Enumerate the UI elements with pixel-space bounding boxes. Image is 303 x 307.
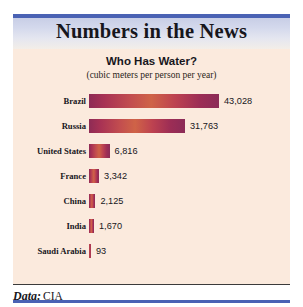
bar-segment bbox=[89, 119, 185, 133]
bar-row: United States6,816 bbox=[13, 139, 290, 164]
chart-subtitle: (cubic meters per person per year) bbox=[13, 70, 290, 80]
bar-category-label: India bbox=[13, 214, 86, 239]
bar-segment bbox=[89, 219, 94, 233]
bar-value-label: 1,670 bbox=[99, 214, 122, 239]
bar-value-label: 31,763 bbox=[190, 114, 218, 139]
bar-row: France3,342 bbox=[13, 164, 290, 189]
bar-row: China2,125 bbox=[13, 189, 290, 214]
bar-category-label: China bbox=[13, 189, 86, 214]
bar-segment bbox=[89, 144, 110, 158]
chart-area: Who Has Water? (cubic meters per person … bbox=[13, 49, 290, 284]
bar-segment bbox=[89, 244, 91, 258]
bar-value-label: 6,816 bbox=[115, 139, 138, 164]
bar-value-label: 43,028 bbox=[224, 89, 252, 114]
bar-value-label: 93 bbox=[96, 239, 106, 264]
bar-row: Brazil43,028 bbox=[13, 89, 290, 114]
bar-segment bbox=[89, 94, 219, 108]
bar-category-label: France bbox=[13, 164, 86, 189]
bar-value-label: 2,125 bbox=[100, 189, 123, 214]
bar-row: India1,670 bbox=[13, 214, 290, 239]
chart-title: Who Has Water? bbox=[13, 55, 290, 67]
bar-category-label: Saudi Arabia bbox=[13, 239, 86, 264]
header-band: Numbers in the News bbox=[13, 18, 290, 49]
bar-rows: Brazil43,028Russia31,763United States6,8… bbox=[13, 89, 290, 264]
footer-divider bbox=[13, 284, 290, 285]
bottom-accent-rule bbox=[13, 300, 290, 303]
bar-segment bbox=[89, 194, 95, 208]
bar-row: Saudi Arabia93 bbox=[13, 239, 290, 264]
bar-row: Russia31,763 bbox=[13, 114, 290, 139]
bar-category-label: Russia bbox=[13, 114, 86, 139]
source-footer: Data:CIA bbox=[13, 286, 290, 301]
bar-segment bbox=[89, 169, 99, 183]
page-title: Numbers in the News bbox=[13, 20, 290, 43]
bar-value-label: 3,342 bbox=[104, 164, 127, 189]
bar-category-label: Brazil bbox=[13, 89, 86, 114]
bar-category-label: United States bbox=[13, 139, 86, 164]
numbers-in-the-news-figure: Numbers in the News Who Has Water? (cubi… bbox=[0, 0, 303, 307]
